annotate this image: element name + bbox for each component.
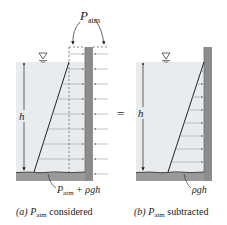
patm-curve-arrow-left: [73, 22, 80, 44]
equals-sign: =: [117, 106, 124, 121]
bottom-pressure-label-a: Patm + ρgh: [56, 184, 100, 197]
atm-arrows-outside-a: [94, 54, 108, 174]
bottom-pressure-label-b: ρgh: [191, 184, 207, 195]
free-surface-icon-a: [39, 53, 47, 62]
wall-a: [85, 47, 93, 181]
diagram-a-atm-considered: h Patm Patm + ρgh (a) Patm considered: [16, 8, 108, 219]
depth-label-a: h: [19, 110, 25, 122]
hydrostatic-pressure-diagram: h Patm Patm + ρgh (a) Patm considered =: [0, 0, 227, 225]
ground-b: [136, 172, 212, 181]
patm-label-top: Patm: [79, 8, 101, 25]
ground-a: [16, 172, 93, 181]
wall-b: [204, 47, 212, 181]
caption-a: (a) Patm considered: [16, 206, 93, 219]
diagram-b-atm-subtracted: h ρgh (b) Patm subtracted: [134, 47, 212, 219]
caption-b: (b) Patm subtracted: [134, 206, 208, 219]
free-surface-icon-b: [162, 53, 170, 62]
depth-label-b: h: [138, 107, 144, 119]
